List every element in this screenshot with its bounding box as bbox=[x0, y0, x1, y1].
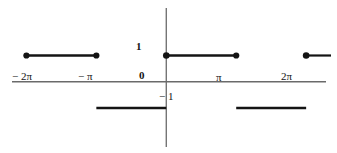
x-tick-neg-2pi: − 2π bbox=[12, 71, 32, 82]
x-tick-neg-pi: − π bbox=[78, 71, 93, 82]
point-zero-one bbox=[163, 52, 170, 59]
point-pi-one bbox=[233, 52, 239, 58]
point-neg2pi-one bbox=[23, 52, 29, 58]
point-2pi-one bbox=[303, 52, 310, 59]
y-tick-neg-one: − 1 bbox=[159, 91, 173, 102]
x-tick-2pi: 2π bbox=[281, 71, 292, 82]
x-tick-zero: 0 bbox=[139, 70, 145, 81]
y-tick-one: 1 bbox=[136, 41, 142, 52]
x-tick-pi: π bbox=[216, 72, 222, 83]
step-function-figure: − 2π − π 0 π 2π 1 − 1 bbox=[0, 0, 337, 153]
point-negpi-one bbox=[93, 52, 99, 58]
